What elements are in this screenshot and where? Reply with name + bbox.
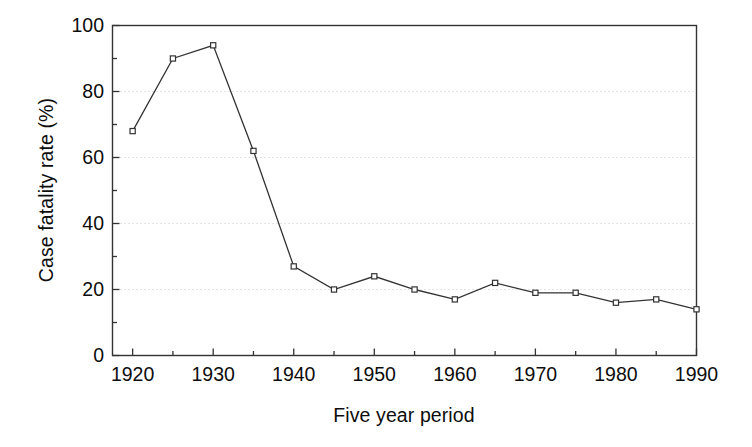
gridlines: [113, 92, 697, 290]
plot-area: [0, 0, 752, 447]
data-markers: [130, 43, 699, 312]
axis-frame: [113, 26, 697, 356]
chart-figure: Case fatality rate (%) 020406080100 1920…: [0, 0, 752, 447]
axis-ticks: [113, 26, 697, 356]
data-series: [133, 45, 697, 309]
